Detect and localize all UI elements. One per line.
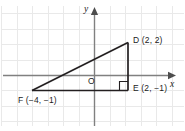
- point-label-e: E (2, −1): [133, 84, 167, 93]
- y-axis-arrow-icon: [91, 7, 98, 15]
- coordinate-plane-figure: y x O D (2, 2) E (2, −1) F (−4, −1): [0, 0, 185, 131]
- point-label-d: D (2, 2): [133, 36, 163, 45]
- triangle-DEF: [32, 43, 128, 91]
- y-axis-label: y: [84, 5, 88, 15]
- axis-y: [91, 7, 98, 126]
- segment-FD: [32, 43, 128, 91]
- x-axis-label: x: [170, 80, 174, 90]
- geometry-layer: [0, 0, 185, 131]
- right-angle-marker-icon: [120, 82, 129, 91]
- point-label-f: F (−4, −1): [18, 96, 57, 105]
- origin-label: O: [88, 77, 95, 86]
